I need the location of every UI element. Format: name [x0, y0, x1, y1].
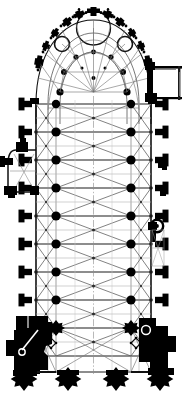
side-chapel-pier-a — [17, 144, 22, 149]
annex-party-wall — [147, 70, 153, 94]
south-tower-band-top — [139, 336, 155, 338]
annex-top-wall — [152, 66, 182, 69]
annex-connector-north — [145, 62, 155, 70]
floor-plan-figure — [0, 0, 187, 396]
cathedral-plan-drawing — [0, 0, 187, 396]
south-tower-band-bottom — [139, 358, 155, 360]
side-chapel-pier-b — [10, 187, 15, 192]
